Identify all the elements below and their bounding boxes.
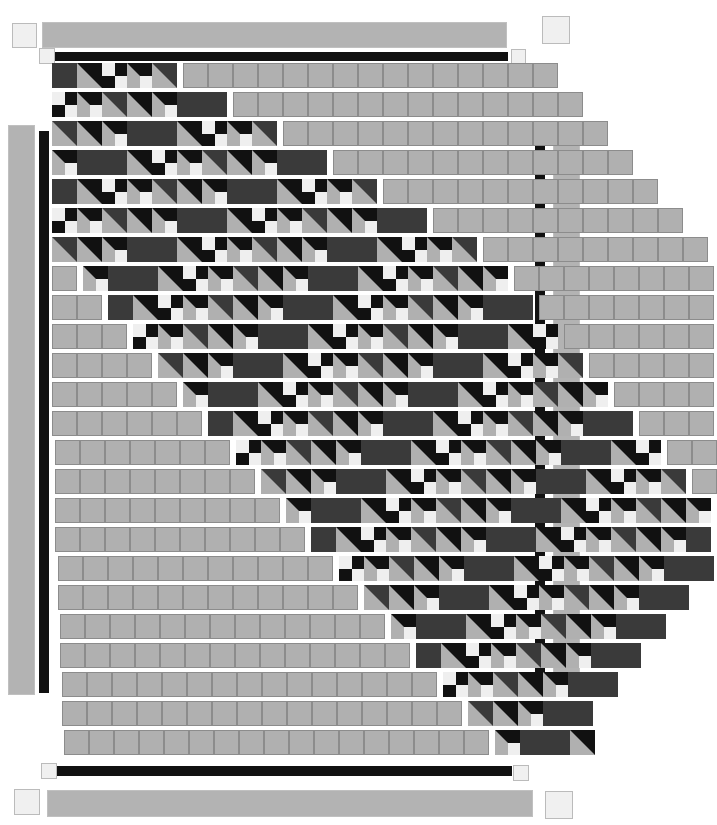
plain-gray-cell	[689, 382, 714, 407]
plain-gray-cell	[689, 266, 714, 291]
step-white-square	[290, 221, 303, 234]
solid-dark-cell	[593, 672, 618, 697]
plain-gray-cell	[133, 585, 158, 610]
staircase-step-cell	[77, 92, 102, 117]
checker-quadrant-tl	[491, 614, 504, 627]
checker-quadrant-tl	[358, 295, 371, 308]
plain-gray-cell	[208, 63, 233, 88]
staircase-step-cell	[286, 498, 311, 523]
staircase-step-cell	[439, 556, 464, 581]
plain-gray-cell	[260, 614, 285, 639]
plain-gray-cell	[433, 121, 458, 146]
plain-gray-cell	[533, 179, 558, 204]
step-white-square	[440, 250, 453, 263]
solid-dark-cell	[616, 643, 641, 668]
plain-gray-cell	[283, 63, 308, 88]
half-square-triangle-cell	[561, 498, 586, 523]
solid-dark-cell	[383, 411, 408, 436]
solid-dark-cell	[536, 469, 561, 494]
plain-gray-cell	[414, 730, 439, 755]
plain-gray-cell	[205, 469, 230, 494]
step-white-square	[240, 134, 253, 147]
half-square-triangle-dark-cell	[364, 585, 389, 610]
plain-gray-cell	[583, 208, 608, 233]
motif-segment	[108, 295, 533, 320]
solid-dark-cell	[208, 411, 233, 436]
plain-gray-cell	[360, 643, 385, 668]
checker-quadrant-br	[352, 569, 365, 582]
checker-quadrant-tl	[411, 469, 424, 482]
half-square-triangle-cell	[227, 208, 252, 233]
solid-dark-cell	[483, 295, 508, 320]
staircase-step-cell	[227, 121, 252, 146]
four-patch-checker-cell	[52, 92, 77, 117]
four-patch-checker-cell	[358, 295, 383, 320]
corner-bottom-left-outer	[14, 789, 40, 815]
step-white-square	[96, 279, 109, 292]
checker-quadrant-br	[265, 221, 278, 234]
plain-gray-cell	[287, 672, 312, 697]
solid-dark-cell	[283, 324, 308, 349]
step-white-square	[274, 453, 287, 466]
plain-gray-cell	[589, 353, 614, 378]
plain-gray-cell	[408, 179, 433, 204]
half-square-triangle-cell	[589, 585, 614, 610]
plain-gray-cell	[312, 672, 337, 697]
solid-dark-cell	[127, 121, 152, 146]
half-square-triangle-cell	[414, 556, 439, 581]
plain-gray-cell	[583, 237, 608, 262]
staircase-step-cell	[583, 382, 608, 407]
plain-gray-cell	[135, 614, 160, 639]
step-white-square	[215, 192, 228, 205]
checker-quadrant-tl	[402, 237, 415, 250]
half-square-triangle-cell	[408, 324, 433, 349]
staircase-step-cell	[83, 266, 108, 291]
half-square-triangle-dark-cell	[233, 266, 258, 291]
checker-quadrant-tl	[252, 208, 265, 221]
checker-quadrant-br	[271, 424, 284, 437]
half-square-triangle-cell	[458, 382, 483, 407]
step-white-square	[115, 134, 128, 147]
staircase-step-cell	[483, 266, 508, 291]
staircase-step-cell	[436, 469, 461, 494]
solid-dark-cell	[386, 440, 411, 465]
plain-gray-cell	[508, 121, 533, 146]
leading-plain-segment	[62, 672, 437, 697]
half-square-triangle-cell	[489, 585, 514, 610]
leading-plain-segment	[55, 527, 305, 552]
staircase-step-cell	[127, 179, 152, 204]
solid-dark-cell	[361, 469, 386, 494]
plain-gray-cell	[614, 353, 639, 378]
plain-gray-cell	[233, 556, 258, 581]
solid-dark-cell	[464, 556, 489, 581]
plain-gray-cell	[52, 411, 77, 436]
checker-quadrant-tl	[333, 324, 346, 337]
plain-gray-cell	[333, 150, 358, 175]
plain-gray-cell	[60, 643, 85, 668]
plain-gray-cell	[408, 150, 433, 175]
bottom-light-border-bar	[47, 790, 533, 817]
leading-plain-segment	[60, 614, 385, 639]
pattern-row	[52, 208, 683, 233]
staircase-step-cell	[358, 324, 383, 349]
plain-gray-cell	[608, 237, 633, 262]
plain-gray-cell	[260, 643, 285, 668]
step-white-square	[427, 598, 440, 611]
checker-quadrant-tl	[158, 295, 171, 308]
left-light-border-bar	[8, 125, 35, 695]
checker-quadrant-br	[374, 540, 387, 553]
plain-gray-cell	[283, 92, 308, 117]
half-square-triangle-dark-cell	[308, 411, 333, 436]
half-square-triangle-cell	[486, 469, 511, 494]
step-white-square	[496, 279, 509, 292]
motif-segment	[183, 382, 608, 407]
plain-gray-cell	[80, 527, 105, 552]
step-white-square	[627, 598, 640, 611]
plain-gray-cell	[333, 121, 358, 146]
staircase-step-cell	[611, 498, 636, 523]
checker-quadrant-br	[479, 656, 492, 669]
staircase-step-cell	[208, 266, 233, 291]
staircase-step-cell	[158, 324, 183, 349]
half-square-triangle-cell	[286, 469, 311, 494]
